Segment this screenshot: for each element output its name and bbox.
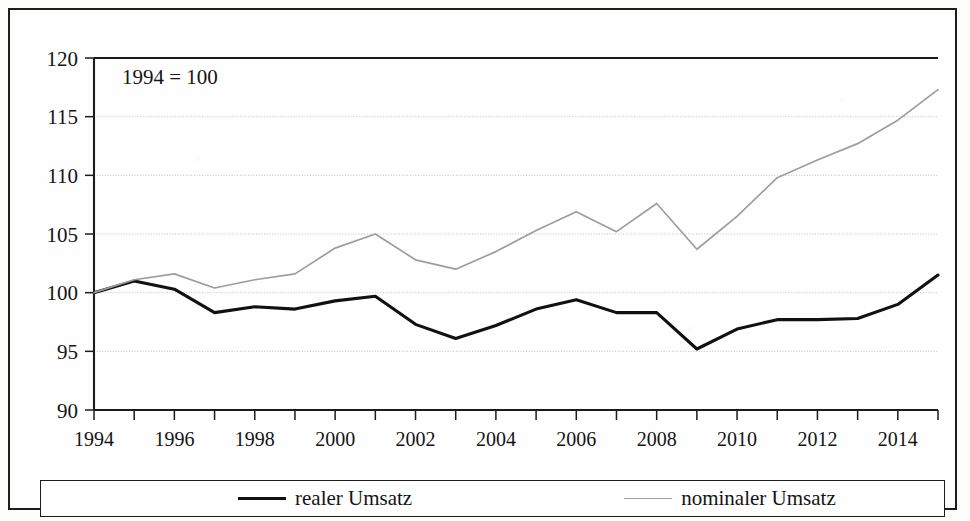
line-chart: 9095100105110115120 19941996199820002002… (32, 30, 942, 455)
legend-label-nominal: nominaler Umsatz (681, 486, 836, 511)
x-tick-label-2010: 2010 (717, 428, 757, 450)
y-tick-label-120: 120 (47, 47, 79, 71)
base-year-annotation: 1994 = 100 (122, 65, 218, 89)
x-tick-label-2002: 2002 (396, 428, 436, 450)
x-tick-label-2006: 2006 (556, 428, 596, 450)
x-tick-label-2014: 2014 (878, 428, 918, 450)
x-tick-label-1998: 1998 (235, 428, 275, 450)
y-tick-label-90: 90 (57, 399, 78, 423)
x-tick-label-2008: 2008 (637, 428, 677, 450)
y-tick-label-105: 105 (47, 223, 79, 247)
y-tick-label-100: 100 (47, 281, 79, 305)
legend-item-realer-umsatz: realer Umsatz (238, 486, 412, 511)
x-tick-label-2012: 2012 (797, 428, 837, 450)
x-axis-tick-labels: 1994199619982000200220042006200820102012… (74, 428, 918, 450)
x-tick-label-2004: 2004 (476, 428, 516, 450)
chart-plot-area: 9095100105110115120 19941996199820002002… (32, 30, 942, 455)
y-tick-label-95: 95 (57, 340, 78, 364)
data-series (94, 90, 938, 349)
figure-frame: 9095100105110115120 19941996199820002002… (8, 8, 957, 510)
y-axis-tick-labels: 9095100105110115120 (47, 47, 79, 423)
y-axis-ticks (85, 58, 94, 410)
series-line-nominaler-umsatz (94, 90, 938, 293)
legend-line-swatch-real (238, 497, 286, 500)
x-tick-label-1996: 1996 (154, 428, 194, 450)
y-tick-label-115: 115 (47, 105, 78, 129)
legend: realer Umsatz nominaler Umsatz (40, 480, 945, 517)
x-tick-label-2000: 2000 (315, 428, 355, 450)
x-tick-label-1994: 1994 (74, 428, 114, 450)
legend-line-swatch-nominal (624, 498, 672, 499)
legend-item-nominaler-umsatz: nominaler Umsatz (624, 486, 836, 511)
x-axis-ticks (94, 410, 938, 420)
y-tick-label-110: 110 (47, 164, 78, 188)
legend-label-real: realer Umsatz (295, 486, 412, 511)
